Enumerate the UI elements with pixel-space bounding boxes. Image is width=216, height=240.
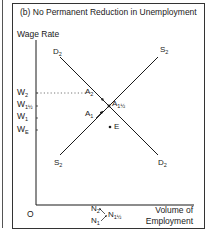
label-sub: 2 [97,208,100,214]
supply-label-bottom: S2 [54,159,62,169]
x-axis-label-line1: Volume of [146,205,193,216]
label-base: W [17,111,25,121]
arrow-n1half-to-n2 [100,209,105,214]
x-axis-label: Volume ofEmployment [146,205,193,227]
label-sub: 1½ [117,103,125,109]
label-sub: 1 [25,116,28,122]
point-e-dot [109,126,112,129]
point-a1half-dot [108,105,111,108]
employment-label-n2: N2 [91,205,100,215]
label-sub: 2 [164,162,167,168]
demand-label-top: D2 [53,48,62,58]
label-base: W [17,87,25,97]
employment-label-n1half: N1½ [108,211,121,221]
y-axis-label: Wage Rate [17,30,59,39]
label-sub: 1½ [114,214,122,220]
x-axis-label-line2: Employment [146,216,193,227]
panel-title: (b) No Permanent Reduction in Unemployme… [20,8,197,17]
label-sub: 1 [90,113,93,119]
label-sub: 2 [59,162,62,168]
label-sub: 2 [25,92,28,98]
label-base: W [17,99,25,109]
wage-label-w2: W2 [17,88,28,99]
arrow-n1-to-n1half [101,216,106,221]
arrow-a1-to-a1half [96,112,102,118]
point-a2-label: A2 [85,88,93,98]
label-sub: 2 [59,51,62,57]
arrow-a2-to-a1half [97,94,103,100]
employment-label-n1: N1 [91,217,100,227]
label-sub: E [25,129,29,135]
origin-label: O [27,210,34,219]
supply-label-top: S2 [160,46,168,56]
label-sub: 2 [165,49,168,55]
point-e-label: E [114,123,119,131]
label-sub: 1½ [25,104,33,110]
demand-label-bottom: D2 [158,159,167,169]
label-sub: 2 [90,91,93,97]
label-base: W [17,124,25,134]
wage-label-w1half: W1½ [17,100,33,111]
point-a1-label: A1 [85,110,93,120]
wage-label-we: WE [17,125,29,136]
label-sub: 1 [97,220,100,226]
point-a1half-label: A1½ [112,100,125,110]
wage-label-w1: W1 [17,112,28,123]
